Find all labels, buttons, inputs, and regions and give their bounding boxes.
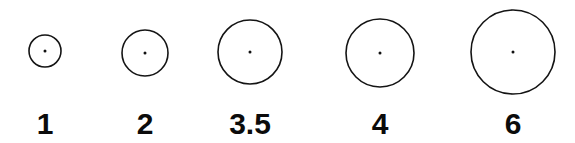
size-label: 2 [137, 107, 154, 140]
size-label: 3.5 [229, 107, 271, 140]
center-dot [512, 51, 515, 54]
size-label: 1 [37, 107, 54, 140]
scale-canvas: 123.546 [0, 0, 575, 143]
center-dot [44, 50, 47, 53]
size-label: 6 [505, 107, 522, 140]
label-group: 123.546 [37, 107, 522, 140]
size-marker [29, 35, 61, 67]
size-marker [471, 10, 555, 94]
size-label: 4 [372, 107, 389, 140]
size-marker [218, 20, 282, 84]
center-dot [249, 51, 252, 54]
size-marker [346, 19, 414, 87]
marker-group [29, 10, 555, 94]
center-dot [144, 52, 147, 55]
center-dot [379, 52, 382, 55]
size-marker [122, 30, 168, 76]
circle-size-scale-figure: 123.546 [0, 0, 575, 143]
